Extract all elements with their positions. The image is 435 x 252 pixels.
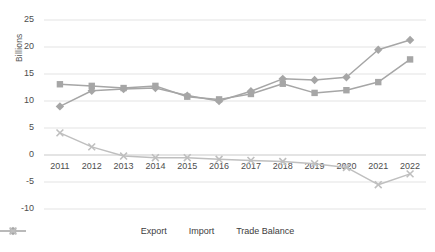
chart-legend: ExportImportTrade Balance (0, 226, 435, 236)
chart-plot-area (0, 0, 435, 252)
legend-item[interactable]: Import (189, 226, 215, 236)
series-line (60, 59, 410, 99)
data-point-marker (407, 171, 414, 178)
data-point-marker (375, 79, 381, 85)
series-line (60, 40, 410, 106)
legend-item-label: Trade Balance (236, 226, 294, 236)
data-point-marker (56, 102, 64, 110)
data-point-marker (407, 56, 413, 62)
data-point-marker (406, 36, 414, 44)
legend-item[interactable]: Trade Balance (236, 226, 294, 236)
data-point-marker (57, 81, 63, 87)
x-legend-marker-icon (0, 226, 26, 236)
data-point-marker (343, 87, 349, 93)
legend-item-label: Import (189, 226, 215, 236)
series-line (60, 133, 410, 185)
chart-container: Billions 2520151050-5-10 201120122013201… (0, 0, 435, 252)
legend-item[interactable]: Export (141, 226, 167, 236)
data-point-marker (57, 129, 64, 136)
legend-item-label: Export (141, 226, 167, 236)
data-point-marker (310, 76, 318, 84)
data-point-marker (311, 90, 317, 96)
